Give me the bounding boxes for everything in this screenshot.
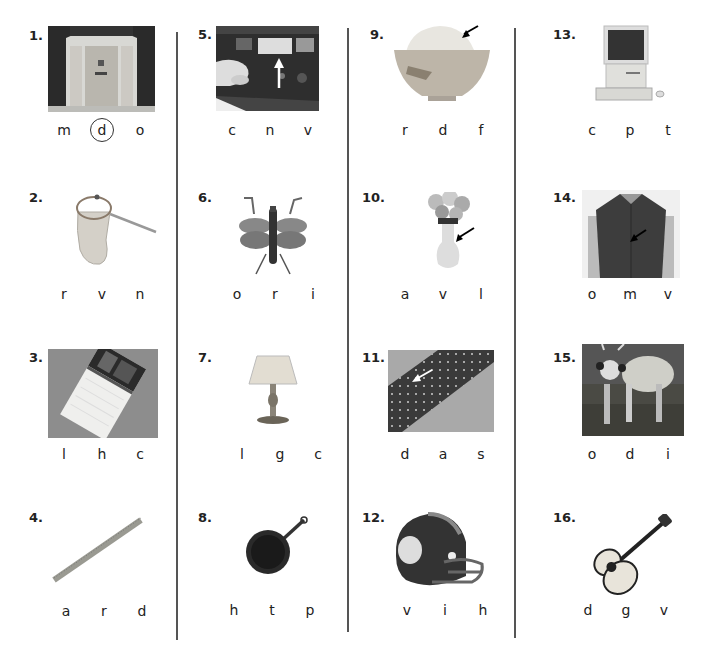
letter-choices: h t p bbox=[222, 598, 322, 622]
exercise-item-9: 9. r d f bbox=[350, 0, 520, 150]
lamp-image bbox=[247, 354, 299, 428]
letter-choice[interactable]: n bbox=[128, 282, 152, 306]
letter-choice[interactable]: v bbox=[395, 598, 419, 622]
letter-choice[interactable]: i bbox=[301, 282, 325, 306]
letter-choices: o d i bbox=[580, 442, 680, 466]
letter-choices: v i h bbox=[395, 598, 495, 622]
letter-choice[interactable]: a bbox=[431, 442, 455, 466]
item-number: 13. bbox=[553, 27, 576, 42]
letter-choice[interactable]: d bbox=[130, 599, 154, 623]
rice-bowl-image bbox=[392, 22, 492, 104]
letter-choices: r v n bbox=[52, 282, 152, 306]
door-image bbox=[48, 26, 155, 112]
letter-choice[interactable]: c bbox=[128, 442, 152, 466]
letter-choice[interactable]: c bbox=[580, 118, 604, 142]
vase-image bbox=[424, 192, 484, 274]
letter-choice[interactable]: v bbox=[296, 118, 320, 142]
letter-choice[interactable]: i bbox=[433, 598, 457, 622]
guitar-image bbox=[586, 514, 674, 598]
letter-choice[interactable]: a bbox=[393, 282, 417, 306]
exercise-item-15: 15. o d i bbox=[520, 320, 690, 470]
vest-image bbox=[582, 190, 680, 278]
item-number: 14. bbox=[553, 190, 576, 205]
letter-choice[interactable]: d bbox=[431, 118, 455, 142]
letter-choice[interactable]: m bbox=[618, 282, 642, 306]
letter-choice[interactable]: o bbox=[580, 282, 604, 306]
insect-image bbox=[238, 192, 308, 278]
item-number: 4. bbox=[29, 510, 43, 525]
letter-choice[interactable]: v bbox=[90, 282, 114, 306]
dotted-fabric-image bbox=[388, 350, 494, 432]
letter-choice[interactable]: f bbox=[469, 118, 493, 142]
letter-choice[interactable]: l bbox=[230, 442, 254, 466]
item-number: 2. bbox=[29, 190, 43, 205]
vcr-slot-image bbox=[216, 26, 319, 111]
helmet-image bbox=[392, 510, 490, 592]
letter-choice[interactable]: i bbox=[656, 442, 680, 466]
letter-choices: d g v bbox=[576, 598, 676, 622]
letter-choice[interactable]: o bbox=[580, 442, 604, 466]
letter-choices: d a s bbox=[393, 442, 493, 466]
letter-choice[interactable]: p bbox=[298, 598, 322, 622]
item-number: 16. bbox=[553, 510, 576, 525]
letter-choices: l h c bbox=[52, 442, 152, 466]
letter-choice[interactable]: h bbox=[90, 442, 114, 466]
letter-choice[interactable]: a bbox=[54, 599, 78, 623]
exercise-item-13: 13. c p t bbox=[520, 0, 690, 150]
letter-choice[interactable]: o bbox=[225, 282, 249, 306]
letter-choice[interactable]: g bbox=[268, 442, 292, 466]
item-number: 15. bbox=[553, 350, 576, 365]
exercise-item-1: 1. m d o bbox=[0, 0, 170, 150]
letter-choice[interactable]: r bbox=[393, 118, 417, 142]
letter-choice[interactable]: d bbox=[618, 442, 642, 466]
item-number: 5. bbox=[198, 27, 212, 42]
exercise-item-10: 10. a v l bbox=[350, 170, 520, 320]
letter-choice[interactable]: t bbox=[656, 118, 680, 142]
letter-choice[interactable]: n bbox=[258, 118, 282, 142]
computer-image bbox=[592, 24, 668, 104]
letter-choices: r d f bbox=[393, 118, 493, 142]
letter-choice[interactable]: r bbox=[92, 599, 116, 623]
letter-choice[interactable]: d bbox=[393, 442, 417, 466]
letter-choice[interactable]: c bbox=[220, 118, 244, 142]
letter-choice[interactable]: d bbox=[576, 598, 600, 622]
letter-choice[interactable]: s bbox=[469, 442, 493, 466]
letter-choice[interactable]: c bbox=[306, 442, 330, 466]
letter-choice[interactable]: h bbox=[471, 598, 495, 622]
pan-image bbox=[242, 514, 312, 578]
column-divider bbox=[176, 32, 178, 640]
item-number: 10. bbox=[362, 190, 385, 205]
letter-choice[interactable]: l bbox=[469, 282, 493, 306]
letter-choices: l g c bbox=[230, 442, 330, 466]
exercise-item-8: 8. h t p bbox=[180, 490, 350, 640]
letter-choice[interactable]: p bbox=[618, 118, 642, 142]
letter-choice[interactable]: h bbox=[222, 598, 246, 622]
item-number: 8. bbox=[198, 510, 212, 525]
letter-choices: a r d bbox=[54, 599, 154, 623]
ruler-image bbox=[48, 510, 148, 590]
exercise-item-3: 3. l h c bbox=[0, 320, 170, 470]
letter-choice-circled[interactable]: d bbox=[90, 118, 114, 142]
letter-choices: c n v bbox=[220, 118, 320, 142]
letter-choices: o r i bbox=[225, 282, 325, 306]
exercise-item-2: 2. r v n bbox=[0, 170, 170, 320]
letter-choice[interactable]: l bbox=[52, 442, 76, 466]
letter-choice[interactable]: o bbox=[128, 118, 152, 142]
exercise-item-6: 6. o r i bbox=[180, 170, 350, 320]
letter-choice[interactable]: v bbox=[431, 282, 455, 306]
exercise-item-16: 16. d g v bbox=[520, 490, 690, 640]
letter-choices: m d o bbox=[52, 118, 152, 142]
net-image bbox=[70, 190, 160, 270]
item-number: 9. bbox=[370, 27, 384, 42]
letter-choice[interactable]: m bbox=[52, 118, 76, 142]
letter-choices: o m v bbox=[580, 282, 680, 306]
letter-choice[interactable]: v bbox=[656, 282, 680, 306]
letter-choice[interactable]: r bbox=[52, 282, 76, 306]
letter-choice[interactable]: r bbox=[263, 282, 287, 306]
letter-choice[interactable]: v bbox=[652, 598, 676, 622]
letter-choice[interactable]: t bbox=[260, 598, 284, 622]
letter-choice[interactable]: g bbox=[614, 598, 638, 622]
letter-choices: c p t bbox=[580, 118, 680, 142]
item-number: 1. bbox=[29, 28, 43, 43]
letter-choices: a v l bbox=[393, 282, 493, 306]
